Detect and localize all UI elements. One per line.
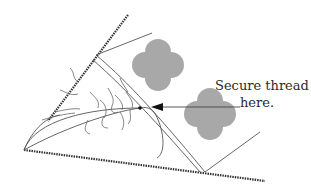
- upper-hatched-edge: [48, 15, 128, 121]
- diagram-figure: Secure thread here.: [0, 0, 311, 196]
- straight-lines: [96, 33, 260, 172]
- clover-shape-lower: [184, 88, 236, 140]
- clover-shape-upper: [132, 39, 184, 91]
- squiggle-fibers: [42, 68, 133, 134]
- annotation-line-2: here.: [240, 95, 274, 110]
- thread-dot: [138, 106, 142, 110]
- annotation-line-1: Secure thread: [215, 78, 309, 93]
